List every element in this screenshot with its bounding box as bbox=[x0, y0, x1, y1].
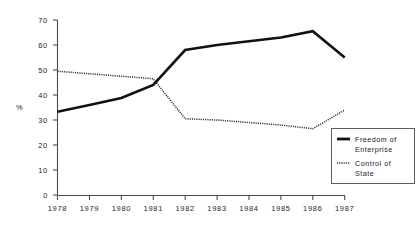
y-tick-label: 0 bbox=[43, 191, 48, 200]
x-tick-label: 1978 bbox=[48, 204, 68, 213]
x-tick-label: 1986 bbox=[303, 204, 323, 213]
series-line-control-of-state bbox=[58, 71, 345, 129]
y-axis-title: % bbox=[16, 103, 23, 112]
legend-label: Enterprise bbox=[355, 145, 393, 154]
x-tick-label: 1987 bbox=[335, 204, 355, 213]
y-tick-label: 20 bbox=[38, 141, 48, 150]
y-tick-marks bbox=[53, 20, 58, 195]
x-tick-label: 1981 bbox=[144, 204, 164, 213]
x-tick-label: 1979 bbox=[80, 204, 100, 213]
legend-label: Freedom of bbox=[355, 135, 397, 144]
y-tick-label: 40 bbox=[38, 91, 48, 100]
y-tick-label: 70 bbox=[38, 16, 48, 25]
y-tick-labels: 70 60 50 40 30 20 10 0 bbox=[38, 16, 48, 200]
x-tick-label: 1983 bbox=[207, 204, 227, 213]
y-tick-label: 50 bbox=[38, 66, 48, 75]
legend-label: State bbox=[355, 169, 374, 178]
y-tick-label: 60 bbox=[38, 41, 48, 50]
x-tick-label: 1985 bbox=[271, 204, 291, 213]
x-tick-labels: 1978 1979 1980 1981 1982 1983 1984 1985 … bbox=[48, 204, 355, 213]
series-line-freedom-of-enterprise bbox=[58, 31, 345, 112]
y-tick-label: 10 bbox=[38, 166, 48, 175]
x-tick-label: 1980 bbox=[112, 204, 132, 213]
legend-label: Control of bbox=[355, 159, 391, 168]
x-tick-marks bbox=[58, 196, 345, 201]
chart-container: 70 60 50 40 30 20 10 0 % 1978 1979 bbox=[0, 0, 418, 229]
line-chart: 70 60 50 40 30 20 10 0 % 1978 1979 bbox=[0, 0, 418, 229]
x-tick-label: 1984 bbox=[239, 204, 259, 213]
x-tick-label: 1982 bbox=[175, 204, 195, 213]
y-tick-label: 30 bbox=[38, 116, 48, 125]
chart-legend: Freedom of Enterprise Control of State bbox=[332, 129, 415, 184]
